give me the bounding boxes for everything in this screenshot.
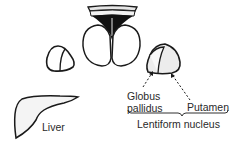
liver-label: Liver (42, 121, 65, 133)
wilson-disease-diagram: Liver Globus pallidus Putamen Lentiform … (0, 0, 239, 146)
putamen-label: Putamen (187, 101, 229, 113)
midbrain-cross-section (83, 6, 140, 67)
lentiform-nucleus-label: Lentiform nucleus (137, 118, 220, 130)
globus-pallidus-label-line2: pallidus (127, 102, 163, 114)
left-lentiform-nucleus (47, 46, 74, 71)
globus-pallidus-label-line1: Globus (127, 90, 160, 102)
